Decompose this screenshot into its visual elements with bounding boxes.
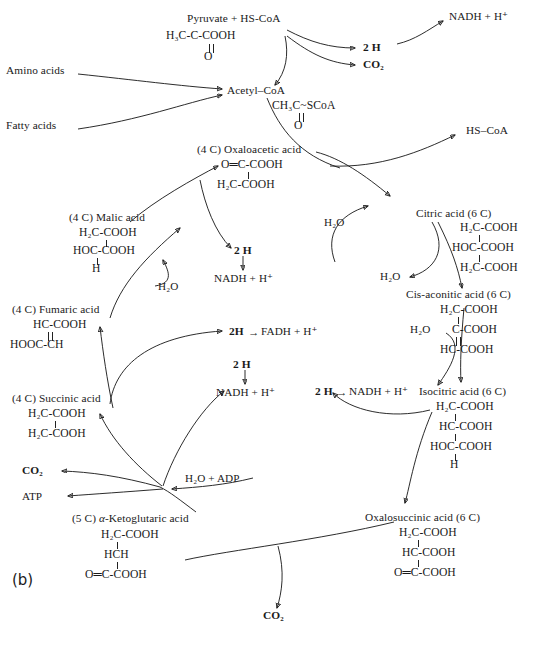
arrow-oxaloacetate-to-citrate bbox=[316, 152, 390, 196]
arrow-ketoglutarate-to-co2 bbox=[62, 471, 160, 487]
formula-malic-line1: H₂C-COOH bbox=[79, 227, 137, 240]
formula-isocitric-line1: H₂C-COOH bbox=[436, 401, 494, 414]
krebs-cycle-figure: Pyruvate + HS-CoA H₃C-C-COOH O 2 H CO₂ N… bbox=[0, 0, 541, 645]
formula-pyruvate-line1: H₃C-C-COOH bbox=[166, 30, 235, 43]
formula-oxaloacetic-line2: H₂C-COOH bbox=[217, 179, 275, 192]
node-label-malic: (4 C) Malic acid bbox=[69, 211, 145, 223]
cofactor-water-malic: H₂O bbox=[158, 280, 178, 292]
cofactor-water-citrate-out: H₂O bbox=[380, 270, 400, 282]
formula-acetylcoa-line2: O bbox=[294, 120, 302, 133]
cofactor-2h-isocitrate: 2 H bbox=[315, 385, 333, 397]
arrow-junction-to-hscoa bbox=[330, 135, 455, 166]
arrow-citrate-releases-water bbox=[410, 222, 439, 277]
arrow-2h-to-nadh-top bbox=[397, 21, 443, 44]
formula-isocitric-line3: HOC-COOH bbox=[430, 441, 492, 454]
cofactor-2h-pyruvate: 2 H bbox=[363, 41, 381, 53]
cofactor-2h-fadh: 2H bbox=[229, 325, 244, 337]
node-label-isocitric: Isocitric acid (6 C) bbox=[419, 385, 506, 397]
arrow-isocitrate-to-oxalosuccinate bbox=[405, 412, 432, 503]
formula-succinic-line1: H₂C-COOH bbox=[28, 408, 86, 421]
node-label-oxalosuccinic: Oxalosuccinic acid (6 C) bbox=[365, 511, 480, 523]
formula-malic-line3: H bbox=[92, 263, 100, 276]
formula-acetylcoa-line1: CH₃C~SCoA bbox=[272, 100, 335, 113]
node-label-cis-aconitic: Cis-aconitic acid (6 C) bbox=[406, 288, 511, 300]
arrow-ketoglutarate-junction-a bbox=[160, 487, 196, 512]
cofactor-2h-succinate: 2 H bbox=[233, 358, 251, 370]
node-label-oxaloacetic: (4 C) Oxaloacetic acid bbox=[197, 143, 301, 155]
formula-fumaric-line2: HOOC-CH bbox=[10, 339, 64, 352]
cofactor-water-citrate-in: H₂O bbox=[324, 216, 344, 228]
formula-ketoglutaric-line3: O═C-COOH bbox=[85, 569, 147, 582]
arrow-fattyacids-to-acetylcoa bbox=[78, 95, 222, 129]
arrow-fumarate-to-malate bbox=[110, 228, 180, 318]
node-label-succinic: (4 C) Succinic acid bbox=[12, 392, 101, 404]
formula-ketoglutaric-line1: H₂C-COOH bbox=[101, 529, 159, 542]
formula-pyruvate-line2: O bbox=[204, 51, 212, 64]
cofactor-nadh-isocitrate: NADH + H⁺ bbox=[349, 385, 408, 397]
panel-label: (b) bbox=[12, 571, 33, 589]
arrow-pyruvate-to-2h bbox=[287, 30, 355, 48]
formula-citric-line1: H₂C-COOH bbox=[460, 222, 518, 235]
formula-succinic-line2: H₂C-COOH bbox=[28, 428, 86, 441]
cofactor-nadh-pyruvate: NADH + H⁺ bbox=[449, 10, 508, 22]
formula-malic-line2: HOC-COOH bbox=[73, 245, 135, 258]
formula-citric-line3: H₂C-COOH bbox=[460, 262, 518, 275]
cofactor-2h-oxaloacetic: 2 H bbox=[234, 244, 252, 256]
cofactor-nadh-succinate: NADH + H⁺ bbox=[216, 386, 275, 398]
formula-oxaloacetic-line1: O═C-COOH bbox=[221, 159, 283, 172]
arrow-glyph-fadh: → bbox=[248, 326, 259, 338]
cofactor-co2-oxalosuccinate: CO₂ bbox=[263, 609, 284, 621]
formula-oxalosuccinic-line3: O═C-COOH bbox=[394, 567, 456, 580]
cofactor-nadh-oxaloacetic: NADH + H⁺ bbox=[214, 272, 273, 284]
formula-ketoglutaric-line2: HCH bbox=[104, 549, 129, 562]
node-label-fumaric: (4 C) Fumaric acid bbox=[12, 303, 99, 315]
arrow-pyruvate-to-acetylcoa bbox=[275, 36, 287, 85]
arrow-releases-co2-bottom bbox=[277, 546, 282, 608]
node-label-citric: Citric acid (6 C) bbox=[416, 207, 491, 219]
cofactor-fadh: FADH + H⁺ bbox=[261, 325, 317, 337]
arrow-succinate-to-fumarate bbox=[100, 327, 113, 408]
node-label-hs-coa: HS–CoA bbox=[466, 124, 508, 136]
cofactor-atp: ATP bbox=[22, 490, 42, 502]
cofactor-water-aconitate: H₂O bbox=[410, 323, 430, 335]
formula-isocitric-line2: HC-COOH bbox=[439, 421, 493, 434]
formula-fumaric-line1: HC-COOH bbox=[33, 319, 87, 332]
node-label-amino-acids: Amino acids bbox=[6, 64, 65, 76]
arrow-glyph-isocitrate: → bbox=[336, 386, 347, 398]
formula-oxalosuccinic-line2: HC-COOH bbox=[402, 547, 456, 560]
arrow-oxalosuccinate-to-ketoglutarate bbox=[185, 522, 394, 560]
cofactor-water-adp: H₂O + ADP bbox=[185, 472, 240, 484]
formula-isocitric-line4: H bbox=[450, 459, 458, 472]
node-label-acetyl-coa: Acetyl–CoA bbox=[227, 84, 285, 96]
arrow-water-into-cycle bbox=[332, 206, 368, 262]
node-label-fatty-acids: Fatty acids bbox=[6, 119, 56, 131]
arrow-pyruvate-to-co2 bbox=[287, 36, 355, 65]
node-label-pyruvate: Pyruvate + HS-CoA bbox=[187, 12, 280, 24]
arrow-water-to-isocitrate bbox=[438, 333, 455, 385]
arrow-aminoacids-to-acetylcoa bbox=[78, 74, 222, 89]
formula-cisaconitic-line3: HC-COOH bbox=[440, 344, 494, 357]
formula-oxalosuccinic-line1: H₂C-COOH bbox=[399, 527, 457, 540]
formula-cisaconitic-line1: H₂C-COOH bbox=[440, 304, 498, 317]
cofactor-co2-pyruvate: CO₂ bbox=[363, 58, 384, 70]
formula-citric-line2: HOC-COOH bbox=[452, 242, 514, 255]
node-label-ketoglutaric: (5 C) α-Ketoglutaric acid bbox=[72, 512, 189, 524]
arrow-ketoglutarate-to-atp bbox=[68, 489, 163, 496]
arrow-junction-to-succinate bbox=[100, 414, 162, 486]
cofactor-co2-succinyl: CO₂ bbox=[22, 464, 43, 476]
arrow-citrate-to-cisaconitate bbox=[438, 222, 462, 288]
formula-cisaconitic-line2: C-COOH bbox=[452, 324, 497, 337]
arrow-succinate-to-fadh bbox=[110, 331, 222, 404]
